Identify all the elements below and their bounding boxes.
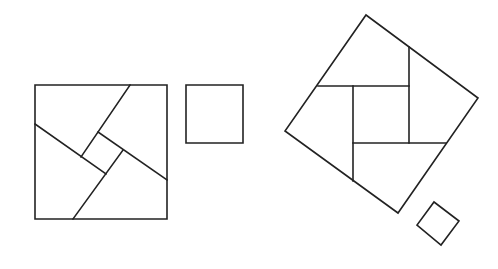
left-small-square bbox=[186, 85, 243, 143]
right-rotated-square-outline bbox=[285, 15, 478, 213]
left-small-square-outline bbox=[186, 85, 243, 143]
right-small-diamond-outline bbox=[417, 202, 459, 245]
right-rotated-square bbox=[285, 15, 478, 213]
dissection-diagram bbox=[0, 0, 498, 269]
left-large-square-cut-line bbox=[35, 124, 106, 174]
left-large-square-outline bbox=[35, 85, 167, 219]
right-small-diamond bbox=[417, 202, 459, 245]
left-large-square bbox=[35, 85, 167, 219]
left-large-square-cut-line bbox=[81, 85, 130, 157]
left-large-square-cut-line bbox=[98, 132, 167, 180]
left-large-square-cut-line bbox=[73, 150, 123, 219]
